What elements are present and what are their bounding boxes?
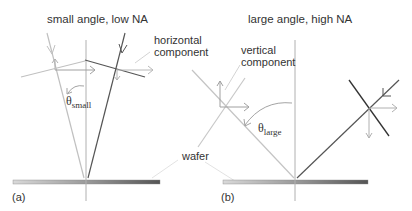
theta-small-label: θsmall: [66, 96, 91, 111]
diagram-canvas: [0, 0, 412, 211]
theta-large-label: θlarge: [258, 123, 282, 138]
reflected-ray-a: [88, 33, 125, 178]
panel-b-tag: (b): [221, 192, 234, 203]
panel-b: [192, 40, 399, 201]
leader-wafer-b: [205, 162, 235, 181]
horizontal-component-line1: horizontal: [154, 34, 208, 46]
angle-arc-a: [68, 86, 84, 93]
horizontal-component-label: horizontal component: [154, 34, 208, 58]
wafer-label: wafer: [182, 151, 209, 162]
horizontal-component-line2: component: [154, 46, 208, 58]
angle-arc-b: [245, 103, 292, 125]
leader-wafer-a: [152, 160, 178, 178]
vertical-component-line1: vertical: [241, 44, 295, 56]
arrowhead: [244, 119, 251, 126]
vertical-component-line2: component: [241, 56, 295, 68]
vertical-component-label: vertical component: [241, 44, 295, 68]
panel-a-title: small angle, low NA: [47, 14, 148, 25]
panel-a: [13, 33, 160, 201]
panel-a-tag: (a): [12, 192, 25, 203]
leader-vertical-component: [225, 65, 240, 90]
theta-subscript-b: large: [264, 127, 282, 137]
theta-subscript-a: small: [72, 100, 92, 110]
panel-b-title: large angle, high NA: [248, 14, 352, 25]
wavefront-incident-a: [21, 61, 85, 77]
leader-horizontal-component: [135, 52, 150, 63]
wavefront-incident-b: [198, 78, 245, 147]
